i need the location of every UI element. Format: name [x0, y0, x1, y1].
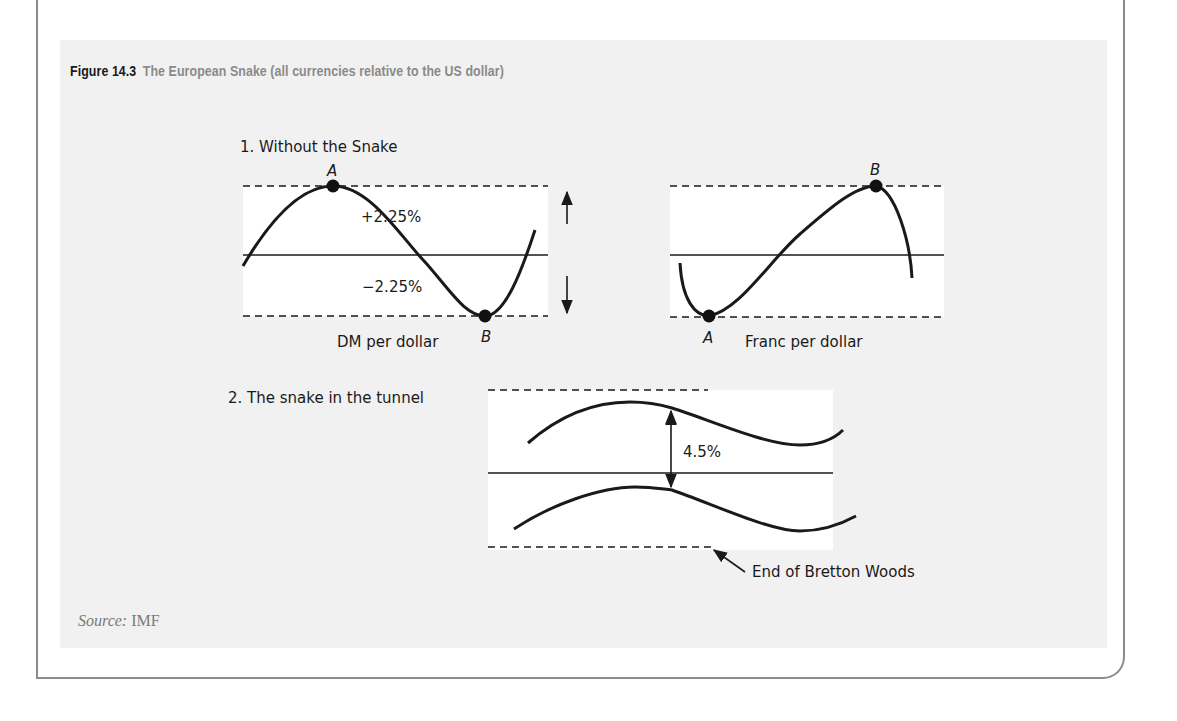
lower-band-label: −2.25%: [362, 278, 422, 296]
upper-band-label: +2.25%: [361, 208, 421, 226]
source-value: IMF: [131, 612, 159, 629]
dm-point-b-label: B: [481, 328, 491, 346]
source-note: Source: IMF: [78, 612, 160, 630]
snake-diagram: 1. Without the Snake A +2.25% −2.25% DM …: [0, 0, 1177, 721]
source-label: Source:: [78, 612, 127, 629]
pointer-arrow-icon: [714, 550, 745, 572]
panel1-title: 1. Without the Snake: [240, 138, 397, 156]
dm-per-dollar-chart: [243, 180, 548, 323]
franc-point-a-label: A: [702, 329, 713, 347]
franc-per-dollar-label: Franc per dollar: [745, 333, 863, 351]
dm-point-a-label: A: [326, 162, 337, 180]
point-a-dm: [327, 180, 340, 193]
panel2-title: 2. The snake in the tunnel: [228, 389, 424, 407]
franc-point-b-label: B: [870, 161, 880, 179]
dm-per-dollar-label: DM per dollar: [337, 333, 439, 351]
band-width-label: 4.5%: [683, 443, 721, 461]
franc-per-dollar-chart: [670, 180, 944, 323]
point-a-franc: [703, 310, 716, 323]
point-b-franc: [870, 180, 883, 193]
snake-in-tunnel-chart: [488, 390, 856, 572]
bretton-woods-annotation: End of Bretton Woods: [752, 563, 915, 581]
point-b-dm: [479, 310, 492, 323]
